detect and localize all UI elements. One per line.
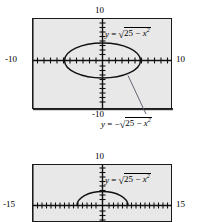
graph-figure-bottom: 10 -15 15 y = √25 − x2 <box>0 135 201 222</box>
top-lower-equation-label: y = −√25 − x2 <box>101 119 152 129</box>
eq2-exponent: 2 <box>148 117 151 123</box>
eq2-leading-minus: − <box>115 119 120 129</box>
eq-exponent: 2 <box>147 27 150 33</box>
top-axis-label-ymin: -10 <box>92 110 104 119</box>
eq-number-25: 25 <box>124 28 133 38</box>
bottom-axis-label-xmin: -15 <box>3 200 15 209</box>
bottom-axis-label-xmax: 15 <box>176 200 185 209</box>
eq2-number-25: 25 <box>125 118 134 128</box>
top-axis-label-xmax: 10 <box>176 55 185 64</box>
bottom-viewport-plot <box>0 135 201 222</box>
eq-radicand: 25 − x2 <box>124 27 151 38</box>
eq2-radicand: 25 − x2 <box>125 117 152 128</box>
eq3-number-25: 25 <box>124 174 133 184</box>
top-upper-equation-label: y = √25 − x2 <box>105 29 151 39</box>
eq3-exponent: 2 <box>147 173 150 179</box>
top-axis-label-xmin: -10 <box>5 55 17 64</box>
eq3-radicand: 25 − x2 <box>124 173 151 184</box>
top-axis-label-ymax: 10 <box>95 6 104 15</box>
bottom-equation-label: y = √25 − x2 <box>105 175 151 185</box>
bottom-axis-label-ymax: 10 <box>95 152 104 161</box>
graph-figure-top: 10 -10 10 -10 y = √25 − x2 y = −√25 − x2 <box>0 0 201 135</box>
